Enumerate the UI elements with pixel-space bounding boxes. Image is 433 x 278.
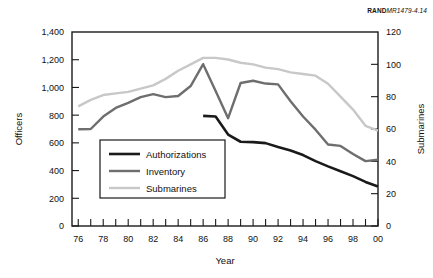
axis-title-y-left: Officers [13,112,24,145]
x-tick-label: 90 [248,234,258,244]
y-tick-label: 1,000 [41,83,64,93]
axis-ticks-x [78,219,378,226]
y2-axis-title: Submarines [415,103,426,154]
legend-label-submarines: Submarines [146,183,197,194]
axis-tick-labels-x: 76788082848688909294969800 [73,234,383,244]
x-tick-label: 98 [348,234,358,244]
x-tick-label: 86 [198,234,208,244]
line-chart-canvas: 76788082848688909294969800 0200400600800… [0,0,433,278]
axis-tick-labels-y-left: 02004006008001,0001,2001,400 [41,27,64,231]
y-tick-label: 200 [49,194,64,204]
chart-legend: AuthorizationsInventorySubmarines [100,140,225,198]
y-tick-label: 800 [49,111,64,121]
series-line-submarines [78,58,378,131]
x-tick-label: 96 [323,234,333,244]
legend-label-inventory: Inventory [146,166,185,177]
axis-title-x: Year [215,255,234,266]
chart-figure: RANDMR1479-4.14 767880828486889092949698… [0,0,433,278]
x-tick-label: 80 [123,234,133,244]
x-tick-label: 92 [273,234,283,244]
y2-tick-label: 40 [386,157,396,167]
x-tick-label: 00 [373,234,383,244]
x-tick-label: 76 [73,234,83,244]
x-tick-label: 78 [98,234,108,244]
y-axis-title: Officers [13,112,24,145]
y2-tick-label: 20 [386,189,396,199]
y2-tick-label: 80 [386,92,396,102]
axis-tick-labels-y-right: 020406080100120 [386,27,401,231]
y-tick-label: 0 [59,221,64,231]
axis-ticks-y-left [72,60,79,226]
x-axis-title: Year [215,255,234,266]
x-tick-label: 82 [148,234,158,244]
axis-ticks-y-right [371,64,378,226]
series-line-authorizations [203,116,378,187]
x-tick-label: 94 [298,234,308,244]
y2-tick-label: 120 [386,27,401,37]
x-tick-label: 88 [223,234,233,244]
y2-tick-label: 60 [386,124,396,134]
y-tick-label: 600 [49,138,64,148]
x-tick-label: 84 [173,234,183,244]
y-tick-label: 1,200 [41,55,64,65]
legend-label-authorizations: Authorizations [146,149,206,160]
y-tick-label: 400 [49,166,64,176]
axis-title-y-right: Submarines [415,103,426,154]
y2-tick-label: 0 [386,221,391,231]
y-tick-label: 1,400 [41,27,64,37]
y2-tick-label: 100 [386,60,401,70]
